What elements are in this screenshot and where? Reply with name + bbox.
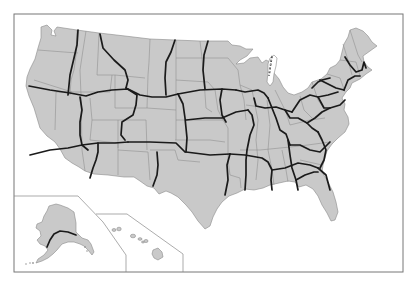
hawaii-inset-border [96,214,183,272]
hawaii-islands [112,227,163,260]
map-container [0,0,415,285]
us-map [0,0,415,285]
alaska-land [36,204,94,263]
